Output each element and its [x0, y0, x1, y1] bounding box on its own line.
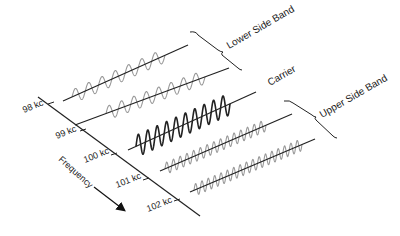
- tick-label-98: 98 kc: [21, 97, 45, 115]
- baseline: [190, 139, 315, 192]
- tick-labels: 98 kc 99 kc 100 kc 101 kc 102 kc: [21, 97, 174, 214]
- wave-lower-1: [75, 68, 229, 125]
- tick-label-102: 102 kc: [145, 194, 174, 213]
- am-sideband-diagram: 98 kc 99 kc 100 kc 101 kc 102 kc Frequen…: [0, 0, 400, 236]
- tick-label-101: 101 kc: [114, 170, 143, 189]
- tick-label-99: 99 kc: [54, 123, 78, 141]
- label-upper-side-band: Upper Side Band: [318, 72, 389, 120]
- wave-lower-2: [63, 45, 188, 101]
- label-lower-side-band: Lower Side Band: [225, 3, 296, 51]
- label-carrier: Carrier: [266, 63, 299, 88]
- baseline: [63, 45, 188, 101]
- baseline: [75, 68, 229, 125]
- wave-carrier: [128, 92, 256, 154]
- baseline: [160, 114, 292, 171]
- frequency-arrow: [94, 187, 124, 210]
- wave-upper-1: [160, 114, 292, 173]
- tick-label-100: 100 kc: [82, 145, 111, 164]
